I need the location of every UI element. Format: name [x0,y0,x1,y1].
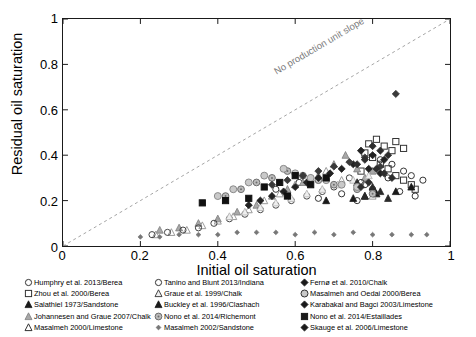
scatter-series [138,230,429,239]
y-tick-labels: 00.20.40.60.81 [18,18,58,247]
open-square-icon [24,289,33,298]
legend-item[interactable]: Nono et al. 2014/Richemont [154,311,300,322]
legend-column: Fernø et al. 2010/ChalkMasalmeh and Oeda… [300,277,472,335]
plot-canvas [63,19,450,246]
open-triangle-icon [24,323,33,332]
x-tick-label: 1 [431,249,471,263]
open-circle-gray-icon [300,289,309,298]
small-diamond-icon [154,323,163,332]
scatter-series [156,152,376,234]
legend-label: Zhou et al. 2000/Berea [34,288,109,299]
filled-diamond-icon [300,300,309,309]
legend-item[interactable]: Graue et al. 1999/Chalk [154,288,300,299]
legend-label: Humphry et al. 2013/Berea [34,277,122,288]
filled-triangle-icon [154,300,163,309]
legend-label: Salathiel 1973/Sandstone [34,299,118,310]
open-circle-icon [154,278,163,287]
y-tick-label: 0.6 [24,104,58,117]
legend-item[interactable]: Salathiel 1973/Sandstone [24,299,154,310]
gray-triangle-icon [24,312,33,321]
filled-triangle-icon [24,300,33,309]
legend-label: Karabakal and Bagci 2003/Limestone [310,299,433,310]
x-tick-label: 0.6 [275,249,315,263]
open-circle-icon [24,278,33,287]
legend-label: Buckley et al. 1996/Clashach [164,299,259,310]
filled-square-icon [300,312,309,321]
legend-item[interactable]: Nono et al. 2014/Estaillades [300,311,472,322]
legend-item[interactable]: Zhou et al. 2000/Berea [24,288,154,299]
legend-label: Masalmeh 2000/Limestone [34,322,123,333]
chart-legend: Humphry et al. 2013/BereaZhou et al. 200… [24,277,472,335]
legend-label: Fernø et al. 2010/Chalk [310,277,387,288]
legend-column: Humphry et al. 2013/BereaZhou et al. 200… [24,277,154,335]
legend-label: Nono et al. 2014/Richemont [164,311,256,322]
legend-label: Masalmeh 2002/Sandstone [164,322,254,333]
legend-label: Skauge et al. 2006/Limestone [310,322,408,333]
x-tick-label: 0.2 [120,249,160,263]
filled-diamond-icon [300,323,309,332]
legend-item[interactable]: Johannesen and Graue 2007/Chalk [24,311,154,322]
legend-column: Tanino and Blunt 2013/IndianaGraue et al… [154,277,300,335]
legend-label: Tanino and Blunt 2013/Indiana [164,277,264,288]
y-tick-label: 0.4 [24,149,58,162]
y-tick-label: 0.2 [24,195,58,208]
legend-item[interactable]: Tanino and Blunt 2013/Indiana [154,277,300,288]
legend-item[interactable]: Masalmeh 2000/Limestone [24,322,154,333]
legend-label: Graue et al. 1999/Chalk [164,288,242,299]
x-tick-label: 0.8 [353,249,393,263]
x-axis-title: Initial oil saturation [62,262,451,278]
x-tick-label: 0 [42,249,82,263]
legend-item[interactable]: Skauge et al. 2006/Limestone [300,322,472,333]
y-tick-label: 1 [24,12,58,25]
legend-label: Johannesen and Graue 2007/Chalk [34,311,151,322]
circle-dot-icon [154,312,163,321]
y-tick-label: 0.8 [24,58,58,71]
legend-label: Masalmeh and Oedai 2000/Berea [310,288,421,299]
legend-item[interactable]: Masalmeh and Oedai 2000/Berea [300,288,472,299]
open-triangle-light-icon [154,289,163,298]
legend-item[interactable]: Buckley et al. 1996/Clashach [154,299,300,310]
scatter-chart-figure: Residual oil saturation 00.20.40.60.81 0… [0,0,476,337]
filled-diamond-icon [300,278,309,287]
legend-item[interactable]: Karabakal and Bagci 2003/Limestone [300,299,472,310]
legend-item[interactable]: Masalmeh 2002/Sandstone [154,322,300,333]
legend-item[interactable]: Fernø et al. 2010/Chalk [300,277,472,288]
legend-item[interactable]: Humphry et al. 2013/Berea [24,277,154,288]
plot-area: No production unit slope [62,18,451,247]
legend-label: Nono et al. 2014/Estaillades [310,311,402,322]
x-tick-label: 0.4 [198,249,238,263]
